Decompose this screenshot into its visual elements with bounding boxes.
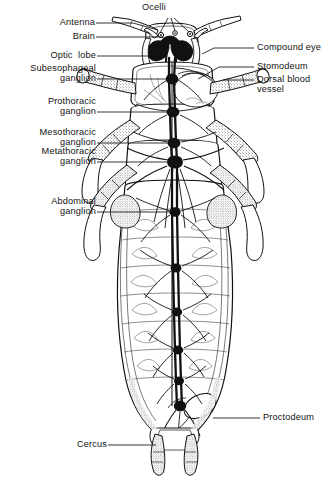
cercus-left [151,434,165,475]
label-mesothoracic-ganglion: Mesothoracic ganglion [0,127,96,148]
label-abdominal-ganglion: Abdominal ganglion [0,196,96,217]
ocellus-left-dot [160,34,162,36]
label-proctodeum: Proctodeum [263,412,332,422]
label-prothoracic-ganglion: Prothoracic ganglion [0,96,96,117]
label-antenna: Antenna [0,17,95,27]
label-cercus: Cercus [0,439,107,449]
coxa-left [110,195,140,228]
abdominal-ganglion-1 [169,207,180,217]
cercus-right [184,434,198,475]
label-ocelli: Ocelli [130,2,178,12]
leader-compound-eye [202,48,254,54]
label-metathoracic-ganglion: Metathoracic ganglion [0,146,96,167]
body-outline-group [75,16,271,475]
label-stomodeum: Stomodeum [257,61,332,71]
label-compound-eye: Compound eye [257,42,332,52]
anatomical-diagram: Ocelli Antenna Brain Optic lobe Subesoph… [0,0,332,477]
ocellus-median-dot [174,32,176,34]
label-subesophageal-ganglion: Subesophageal ganglion [0,63,96,84]
abdominal-ganglion-2 [171,263,182,272]
ocellus-right-dot [189,33,191,35]
abdominal-ganglion-5 [174,377,184,385]
label-brain: Brain [0,31,95,41]
abdominal-ganglion-3 [172,308,182,317]
abdominal-ganglion-4 [173,346,183,355]
label-dorsal-blood-vessel: Dorsal blood vessel [257,74,332,95]
label-optic-lobe: Optic lobe [0,50,96,60]
